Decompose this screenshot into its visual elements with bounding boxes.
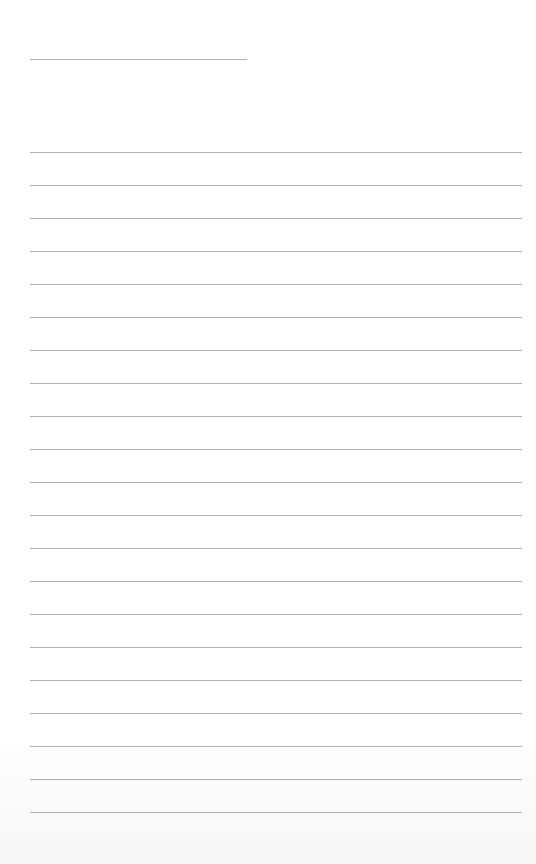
ruled-line [30,284,522,285]
ruled-line [30,515,522,516]
ruled-lines [30,0,522,864]
ruled-line [30,350,522,351]
ruled-line [30,251,522,252]
ruled-line [30,779,522,780]
ruled-line [30,812,522,813]
ruled-line [30,482,522,483]
ruled-line [30,152,522,153]
ruled-line [30,185,522,186]
ruled-line [30,680,522,681]
ruled-line [30,581,522,582]
ruled-line [30,614,522,615]
ruled-line [30,713,522,714]
ruled-line [30,317,522,318]
ruled-line [30,548,522,549]
ruled-line [30,218,522,219]
ruled-line [30,416,522,417]
ruled-line [30,449,522,450]
ruled-line [30,647,522,648]
ruled-line [30,746,522,747]
ruled-line [30,383,522,384]
